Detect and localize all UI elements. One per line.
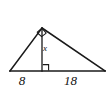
label-base-left-segment: 8: [13, 74, 31, 87]
label-base-right-segment: 18: [60, 74, 81, 87]
geometry-figure: 8 18 x: [0, 0, 112, 95]
label-altitude: x: [43, 44, 53, 53]
left-leg-line: [10, 28, 42, 71]
foot-right-angle-mark: [43, 65, 49, 71]
